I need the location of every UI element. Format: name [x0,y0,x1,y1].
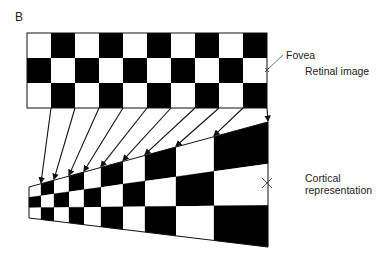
retinal-cell [195,83,219,108]
retinal-cell [27,58,51,83]
fovea-leader-line [268,55,283,69]
mapping-arrow [267,108,268,121]
cortical-cell [69,207,84,225]
retinal-cell [219,58,243,83]
retinotopic-mapping-diagram [0,0,388,259]
cortical-cell [84,187,101,207]
retinal-cell [75,58,99,83]
cortical-cell [176,137,214,177]
retinal-cell [123,33,147,58]
cortical-label-line1: Cortical [305,172,372,184]
cortical-cell [101,184,123,207]
cortical-cell [145,177,176,207]
cortical-cell [176,206,214,241]
retinal-cell [171,58,195,83]
retinal-cell [243,58,267,83]
cortical-cell [41,207,54,221]
mapping-arrow [41,108,51,183]
cortical-cell [54,207,69,223]
retinal-cell [123,83,147,108]
cortical-cell [29,196,41,208]
cortical-cell [41,194,54,208]
cortical-cell [123,207,145,233]
cortical-cell [69,172,84,192]
retinal-cell [219,83,243,108]
retinal-cell [51,33,75,58]
cortical-cell [84,207,101,227]
retinal-cell [219,33,243,58]
retinal-cell [147,33,171,58]
retinal-cell [27,83,51,108]
retinal-cell [51,83,75,108]
retinal-cell [195,58,219,83]
retinal-cell [171,83,195,108]
retinal-cell [195,33,219,58]
retinal-cell [123,58,147,83]
mapping-arrow [84,108,123,171]
cortical-cell [101,207,123,230]
cortical-cell [101,161,123,187]
retinal-cell [99,33,123,58]
retinal-cell [75,33,99,58]
retinal-image-grid [27,33,267,108]
mapping-arrow [69,108,99,175]
retinal-cell [171,33,195,58]
retinal-cell [75,83,99,108]
cortical-cell [123,181,145,207]
cortical-cell [84,167,101,189]
retinal-cell [51,58,75,83]
retinal-cell [147,83,171,108]
cortical-label-line2: representation [305,184,372,196]
cortical-label: Cortical representation [305,172,372,196]
cortical-cell [54,176,69,194]
cortical-cell [29,208,41,220]
cortical-cell [145,206,176,236]
cortical-cell [54,192,69,208]
cortical-cell [176,171,214,206]
fovea-label: Fovea [286,49,315,61]
cortical-cell [41,180,54,195]
cortical-cell [123,155,145,184]
cortical-cell [145,147,176,181]
retinal-cell [243,33,267,58]
cortical-cell [214,205,268,247]
retinal-cell [243,83,267,108]
retinal-cell [27,33,51,58]
retinal-cell [99,83,123,108]
cortical-cell [69,190,84,208]
retinal-image-label: Retinal image [305,65,369,77]
retinal-cell [147,58,171,83]
retinal-cell [99,58,123,83]
